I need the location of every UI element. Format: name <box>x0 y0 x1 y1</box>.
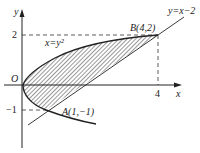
y-axis-label: y <box>13 6 19 17</box>
tick-x-4: 4 <box>155 88 160 99</box>
parabola-label: x=y² <box>44 37 65 48</box>
tick-y-neg1: −1 <box>6 104 17 115</box>
origin-label: O <box>11 73 18 84</box>
line-label: y=x−2 <box>167 5 195 16</box>
tick-y-2: 2 <box>12 29 17 40</box>
x-axis-arrow-icon <box>174 83 182 88</box>
point-b-label: B(4,2) <box>130 22 156 34</box>
point-a-label: A(1,−1) <box>61 106 95 118</box>
y-axis-arrow-icon <box>20 9 25 17</box>
shaded-region <box>23 35 158 110</box>
x-axis-label: x <box>175 88 181 99</box>
diagram-canvas: y x O 2 −1 4 x=y² y=x−2 B(4,2) A(1,−1) <box>0 0 200 153</box>
